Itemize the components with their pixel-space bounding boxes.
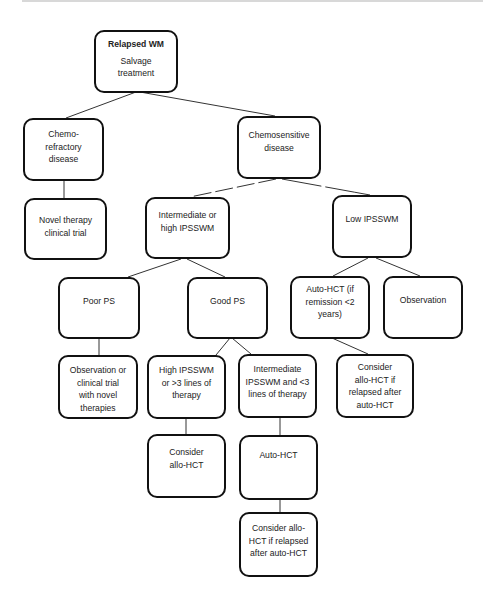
edge-intermediate-poor — [128, 259, 181, 277]
node-title: Relapsed WM — [100, 38, 172, 51]
node-consider-allo-hct-relapsed-right: Consider allo-HCT if relapsed after auto… — [336, 354, 414, 418]
node-observation-clinical-trial: Observation or clinical trial with novel… — [58, 355, 138, 419]
edge-good-high — [216, 338, 230, 355]
node-high-ipsswm-lines: High IPSSWM or >3 lines of therapy — [147, 355, 226, 419]
node-text: Intermediate or high IPSSWM — [151, 209, 224, 234]
node-text: Observation or clinical trial with novel… — [64, 364, 132, 414]
edge-low-autohct — [333, 258, 368, 276]
edge-autohct-consider-right — [332, 338, 368, 354]
node-consider-allo-hct-relapsed-bottom: Consider allo- HCT if relapsed after aut… — [239, 512, 318, 577]
node-text: Intermediate IPSSWM and <3 lines of ther… — [244, 363, 311, 401]
edge-chemosensitive-intermediate — [190, 179, 276, 197]
node-intermediate-high-ipsswm: Intermediate or high IPSSWM — [145, 197, 230, 259]
node-text: Novel therapy clinical trial — [30, 214, 101, 239]
node-text: Chemo- refractory disease — [29, 128, 98, 166]
node-consider-allo-hct: Consider allo-HCT — [147, 434, 226, 498]
node-text: Salvage treatment — [100, 55, 172, 80]
node-novel-therapy: Novel therapy clinical trial — [24, 198, 107, 260]
node-chemosensitive: Chemosensitive disease — [237, 116, 321, 179]
node-text: High IPSSWM or >3 lines of therapy — [153, 364, 220, 402]
node-intermediate-ipsswm-lines: Intermediate IPSSWM and <3 lines of ther… — [238, 354, 317, 418]
edge-intermediate-good — [187, 259, 225, 277]
node-low-ipsswm: Low IPSSWM — [332, 195, 412, 258]
node-text: Low IPSSWM — [338, 213, 406, 226]
node-text: Consider allo-HCT if relapsed after auto… — [342, 361, 408, 411]
node-text: Observation — [389, 294, 457, 307]
node-relapsed-wm: Relapsed WM Salvage treatment — [94, 30, 178, 93]
edge-low-observation — [376, 258, 420, 276]
node-text: Chemosensitive disease — [243, 129, 315, 154]
node-poor-ps: Poor PS — [58, 277, 140, 339]
node-text: Auto-HCT — [245, 449, 312, 462]
node-text: Consider allo-HCT — [153, 446, 220, 471]
node-auto-hct: Auto-HCT — [239, 435, 318, 500]
edge-root-chemo-refractory — [66, 92, 136, 118]
node-auto-hct-remission: Auto-HCT (if remission <2 years) — [290, 276, 370, 339]
node-text: Poor PS — [64, 295, 134, 308]
node-chemo-refractory: Chemo- refractory disease — [23, 118, 104, 181]
node-text: Auto-HCT (if remission <2 years) — [296, 283, 364, 321]
node-text: Consider allo- HCT if relapsed after aut… — [245, 522, 312, 560]
edge-chemosensitive-low — [282, 179, 370, 195]
node-observation: Observation — [383, 276, 463, 339]
edge-good-intermediate-lines — [232, 338, 251, 354]
node-text: Good PS — [193, 295, 262, 308]
node-good-ps: Good PS — [187, 277, 268, 339]
edge-root-chemosensitive — [140, 92, 275, 116]
